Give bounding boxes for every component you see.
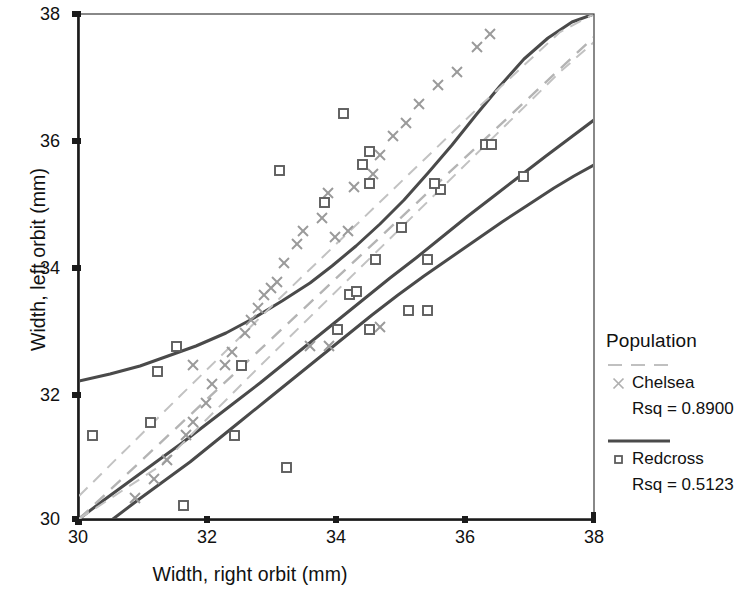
- y-tick-38-wrap: 30: [14, 519, 60, 520]
- legend-entry-chelsea[interactable]: Chelsea Rsq = 0.8900: [604, 360, 751, 422]
- y-tick-30-wrap: 38: [14, 14, 60, 15]
- data-point-marker: [365, 325, 374, 334]
- x-tick-label: 30: [48, 528, 108, 546]
- y-tick-label: 30: [20, 510, 60, 528]
- x-tick-label: 34: [306, 528, 366, 546]
- data-point-marker: [365, 179, 374, 188]
- legend-rsq-value: Rsq = 0.8900: [632, 396, 751, 422]
- data-point-marker: [320, 198, 329, 207]
- legend: Population Chelsea Rsq = 0.8900: [604, 330, 751, 545]
- data-point-marker: [519, 172, 528, 181]
- data-point-marker: [404, 306, 413, 315]
- x-tick-label: 36: [435, 528, 495, 546]
- data-point-marker: [423, 255, 432, 264]
- legend-label: Chelsea: [632, 373, 694, 393]
- y-axis-title: Width, left orbit (mm): [27, 130, 50, 390]
- square-marker-icon: [604, 453, 632, 466]
- legend-entry-redcross[interactable]: Redcross Rsq = 0.5123: [604, 436, 751, 498]
- dashed-line-icon: [608, 360, 751, 370]
- x-marker-icon: [604, 377, 632, 390]
- data-point-marker: [487, 140, 496, 149]
- data-point-marker: [146, 418, 155, 427]
- scatter-plot-figure: 38 36 34 32 30 30 32 34 36 38 Width, lef…: [0, 0, 751, 609]
- y-tick-32-wrap: 32: [14, 395, 60, 396]
- data-point-marker: [423, 306, 432, 315]
- data-point-marker: [275, 166, 284, 175]
- legend-title: Population: [606, 330, 751, 352]
- legend-label: Redcross: [632, 449, 704, 469]
- y-tick-label: 38: [20, 5, 60, 23]
- data-point-marker: [282, 463, 291, 472]
- x-tick-label: 32: [177, 528, 237, 546]
- x-axis-title: Width, right orbit (mm): [70, 563, 430, 586]
- data-point-marker: [172, 342, 181, 351]
- data-point-marker: [333, 325, 342, 334]
- data-point-marker: [230, 431, 239, 440]
- data-point-marker: [358, 160, 367, 169]
- data-point-marker: [430, 179, 439, 188]
- data-point-marker: [352, 287, 361, 296]
- data-point-marker: [397, 223, 406, 232]
- plot-frame: [78, 14, 594, 520]
- legend-rsq-value: Rsq = 0.5123: [632, 472, 751, 498]
- data-point-marker: [179, 501, 188, 510]
- data-point-marker: [153, 367, 162, 376]
- data-point-marker: [237, 361, 246, 370]
- data-point-marker: [339, 109, 348, 118]
- data-point-marker: [371, 255, 380, 264]
- data-point-marker: [365, 147, 374, 156]
- data-point-marker: [88, 431, 97, 440]
- solid-line-icon: [608, 436, 751, 446]
